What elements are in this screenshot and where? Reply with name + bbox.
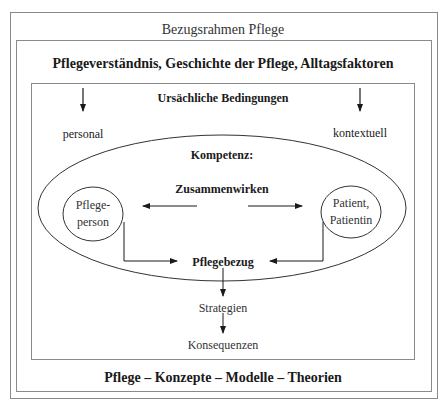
ellipse-title: Kompetenz: (191, 148, 254, 163)
center-node-label: Pflegebezug (192, 255, 253, 270)
footer-label: Pflege – Konzepte – Modelle – Theorien (104, 370, 342, 386)
outer-title: Bezugsrahmen Pflege (162, 22, 284, 38)
right-condition-label: kontextuell (333, 126, 387, 141)
nurse-node-line1: Pflege- (76, 197, 111, 214)
nurse-to-care-connector (124, 222, 177, 261)
nurse-node-label: Pflege- person (76, 197, 111, 231)
left-condition-label: personal (63, 127, 104, 142)
patient-node-line1: Patient, (330, 195, 373, 212)
strategies-label: Strategien (199, 301, 248, 316)
consequences-label: Konsequenzen (188, 338, 259, 353)
nurse-node-line2: person (76, 214, 111, 231)
middle-header: Pflegeverständnis, Geschichte der Pflege… (53, 56, 394, 72)
interaction-label: Zusammenwirken (175, 182, 268, 197)
inner-header: Ursächliche Bedingungen (157, 91, 288, 106)
patient-node-line2: Patientin (330, 212, 373, 229)
patient-node-label: Patient, Patientin (330, 195, 373, 229)
patient-to-care-connector (270, 222, 323, 261)
